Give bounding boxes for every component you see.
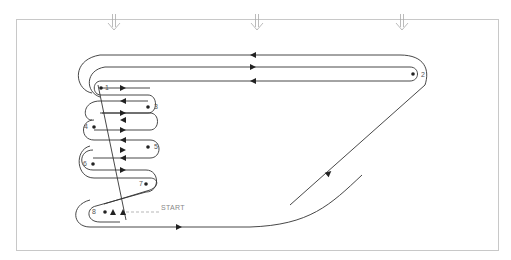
svg-text:2: 2 — [421, 71, 425, 78]
svg-text:8: 8 — [92, 208, 96, 215]
waypoint-3: 3 — [146, 103, 158, 110]
svg-text:4: 4 — [84, 123, 88, 130]
serpentine-path — [82, 101, 159, 222]
middle-loop-path — [89, 67, 417, 113]
waypoint-1: 1 — [99, 84, 109, 91]
wind-arrow-center-icon — [251, 14, 263, 30]
waypoint-6: 6 — [83, 160, 95, 167]
waypoint-5: 5 — [146, 143, 158, 150]
waypoint-7: 7 — [139, 180, 148, 187]
svg-text:7: 7 — [139, 180, 143, 187]
svg-text:1: 1 — [105, 84, 109, 91]
wind-arrow-left-icon — [108, 14, 120, 30]
svg-text:6: 6 — [83, 160, 87, 167]
waypoint-4: 4 — [84, 123, 96, 130]
svg-text:3: 3 — [154, 103, 158, 110]
flight-pattern-diagram: START 1 2 3 4 5 6 7 8 — [0, 0, 511, 260]
start-label: START — [161, 204, 185, 211]
waypoint-2: 2 — [411, 71, 425, 78]
diagonal-path — [98, 85, 126, 220]
wind-arrow-right-icon — [396, 14, 408, 30]
svg-text:5: 5 — [154, 143, 158, 150]
waypoint-8: 8 — [92, 208, 107, 215]
